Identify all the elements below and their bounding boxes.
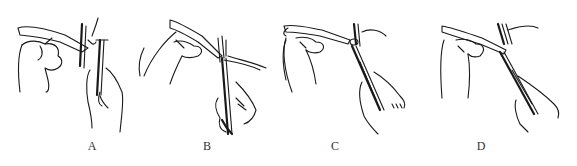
- panel-label-a: A: [82, 139, 102, 154]
- hands-forceps-needle-holder-illustration-c: [280, 0, 430, 166]
- panel-a: A: [0, 0, 145, 166]
- panel-label-c: C: [325, 139, 345, 154]
- hands-forceps-needle-holder-illustration-d: [420, 0, 577, 166]
- panel-b: B: [140, 0, 290, 166]
- panel-label-d: D: [471, 139, 491, 154]
- panel-c: C: [280, 0, 430, 166]
- hands-forceps-needle-holder-illustration-a: [0, 0, 145, 166]
- panel-d: D: [420, 0, 577, 166]
- panel-label-b: B: [197, 139, 217, 154]
